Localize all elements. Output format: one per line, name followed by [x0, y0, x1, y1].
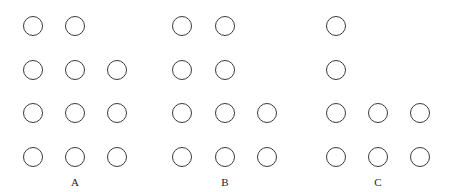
circle-a-r4-c3 — [107, 147, 127, 167]
circle-c-r4-c1 — [326, 147, 346, 167]
circle-c-r4-c3 — [410, 147, 430, 167]
circle-a-r4-c2 — [65, 147, 85, 167]
circle-b-r2-c1 — [172, 60, 192, 80]
circle-a-r2-c3 — [107, 60, 127, 80]
circle-a-r1-c2 — [65, 16, 85, 36]
circle-b-r2-c2 — [215, 60, 235, 80]
circle-c-r3-c1 — [326, 103, 346, 123]
panel-label-c: C — [374, 176, 381, 188]
circle-b-r3-c2 — [215, 103, 235, 123]
circle-a-r3-c3 — [107, 103, 127, 123]
panel-label-b: B — [221, 176, 228, 188]
circle-b-r1-c2 — [215, 16, 235, 36]
circle-a-r1-c1 — [23, 16, 43, 36]
circle-c-r2-c1 — [326, 60, 346, 80]
circle-b-r1-c1 — [172, 16, 192, 36]
circle-a-r3-c2 — [65, 103, 85, 123]
circle-b-r4-c3 — [257, 147, 277, 167]
circle-c-r4-c2 — [368, 147, 388, 167]
circle-a-r3-c1 — [23, 103, 43, 123]
circle-b-r4-c1 — [172, 147, 192, 167]
circle-a-r2-c2 — [65, 60, 85, 80]
circle-b-r4-c2 — [215, 147, 235, 167]
circle-a-r4-c1 — [23, 147, 43, 167]
circle-b-r3-c3 — [257, 103, 277, 123]
circle-a-r2-c1 — [23, 60, 43, 80]
circle-c-r3-c3 — [410, 103, 430, 123]
circle-b-r3-c1 — [172, 103, 192, 123]
circle-c-r1-c1 — [326, 16, 346, 36]
circle-c-r3-c2 — [368, 103, 388, 123]
panel-label-a: A — [71, 176, 79, 188]
